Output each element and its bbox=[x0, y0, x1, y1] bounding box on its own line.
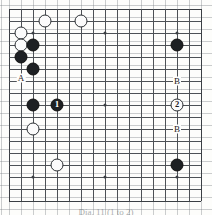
go-board[interactable]: 12 ABB bbox=[9, 9, 201, 201]
stone-black-move-1[interactable]: 1 bbox=[51, 99, 64, 112]
stone-black[interactable] bbox=[15, 51, 28, 64]
stone-move-number: 2 bbox=[175, 100, 179, 109]
board-line-horizontal bbox=[9, 117, 201, 118]
go-diagram-figure: 12 ABB Dia. 11 (1 to 2) bbox=[0, 0, 212, 215]
board-line-vertical bbox=[141, 9, 142, 201]
board-line-horizontal bbox=[9, 153, 201, 154]
star-point bbox=[104, 176, 107, 179]
star-point bbox=[32, 32, 35, 35]
stone-white[interactable] bbox=[39, 15, 52, 28]
figure-caption: Dia. 11 (1 to 2) bbox=[0, 207, 212, 215]
star-point bbox=[104, 104, 107, 107]
board-line-horizontal bbox=[9, 141, 201, 142]
star-point bbox=[176, 32, 179, 35]
board-line-vertical bbox=[117, 9, 118, 201]
stone-black[interactable] bbox=[27, 99, 40, 112]
star-point bbox=[104, 32, 107, 35]
board-line-horizontal bbox=[9, 201, 201, 202]
board-line-vertical bbox=[201, 9, 202, 201]
board-line-vertical bbox=[165, 9, 166, 201]
stone-white[interactable] bbox=[75, 15, 88, 28]
board-line-vertical bbox=[129, 9, 130, 201]
point-marker-b: B bbox=[173, 77, 181, 86]
stone-black[interactable] bbox=[171, 39, 184, 52]
board-line-vertical bbox=[153, 9, 154, 201]
stone-white-move-2[interactable]: 2 bbox=[171, 99, 184, 112]
point-marker-b: B bbox=[173, 125, 181, 134]
stone-move-number: 1 bbox=[55, 100, 60, 109]
star-point bbox=[176, 176, 179, 179]
stone-black[interactable] bbox=[171, 159, 184, 172]
stone-white[interactable] bbox=[27, 123, 40, 136]
star-point bbox=[32, 176, 35, 179]
point-marker-a: A bbox=[17, 74, 26, 83]
stone-black[interactable] bbox=[27, 63, 40, 76]
board-line-horizontal bbox=[9, 189, 201, 190]
stone-black[interactable] bbox=[27, 39, 40, 52]
stone-white[interactable] bbox=[51, 159, 64, 172]
board-line-vertical bbox=[189, 9, 190, 201]
